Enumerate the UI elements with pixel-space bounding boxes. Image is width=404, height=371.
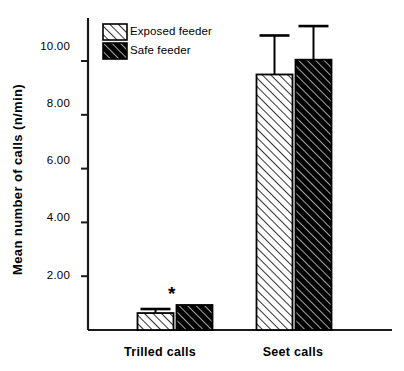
y-tick-label-6: 6.00 (24, 155, 70, 167)
plot-area (0, 0, 404, 371)
y-tick-label-8: 8.00 (24, 98, 70, 110)
bar-trilled-calls-safe-feeder (177, 305, 213, 330)
bars-group (138, 60, 332, 330)
bar-seet-calls-safe-feeder (296, 60, 332, 330)
y-tick-label-2: 2.00 (24, 270, 70, 282)
legend-label-safe-feeder: Safe feeder (130, 44, 191, 56)
legend-swatch-safe-feeder (103, 43, 127, 59)
y-axis-title: Mean number of calls (n/min) (10, 55, 25, 305)
bar-trilled-calls-exposed-feeder (138, 313, 174, 330)
axis-lines (81, 18, 392, 330)
chart-figure: Mean number of calls (n/min) 10.00 8.00 … (0, 0, 404, 371)
bar-seet-calls-exposed-feeder (257, 74, 293, 330)
legend-swatch-exposed-feeder (103, 24, 127, 40)
legend-swatches (103, 24, 127, 59)
y-tick-label-4: 4.00 (24, 212, 70, 224)
y-tick-label-10: 10.00 (24, 41, 70, 53)
x-category-label-seet-calls: Seet calls (238, 345, 348, 359)
significance-asterisk: * (168, 284, 175, 303)
x-category-label-trilled-calls: Trilled calls (105, 345, 215, 359)
legend-label-exposed-feeder: Exposed feeder (130, 25, 212, 37)
